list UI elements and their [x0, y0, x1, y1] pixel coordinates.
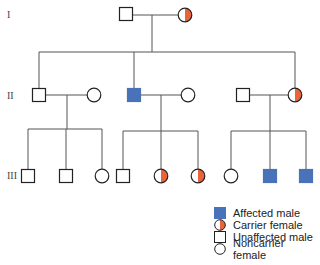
- female-carrier-symbol: [178, 8, 192, 22]
- male-affected-symbol: [300, 170, 313, 183]
- pedigree-lines: [28, 15, 306, 169]
- legend: Affected male Carrier female Unaffected …: [214, 207, 320, 255]
- male-affected-symbol: [264, 170, 277, 183]
- legend-item-carrier-female: Carrier female: [214, 219, 320, 231]
- affected-male-icon: [214, 207, 226, 219]
- female-noncarrier-symbol: [95, 169, 109, 183]
- generation-label-I: I: [7, 9, 10, 20]
- carrier-female-icon: [214, 219, 226, 231]
- male-unaffected-symbol: [120, 8, 133, 21]
- male-unaffected-symbol: [33, 89, 46, 102]
- female-carrier-symbol: [154, 169, 168, 183]
- male-unaffected-symbol: [117, 170, 130, 183]
- legend-item-affected-male: Affected male: [214, 207, 320, 219]
- generation-label-II: II: [7, 90, 14, 101]
- legend-item-noncarrier-female: Noncarrier female: [214, 243, 320, 255]
- noncarrier-female-icon: [214, 243, 226, 255]
- male-unaffected-symbol: [60, 170, 73, 183]
- female-noncarrier-symbol: [181, 88, 195, 102]
- legend-label: Carrier female: [233, 219, 303, 231]
- male-unaffected-symbol: [237, 89, 250, 102]
- legend-label: Affected male: [233, 207, 300, 219]
- unaffected-male-icon: [214, 231, 226, 243]
- female-noncarrier-symbol: [224, 169, 238, 183]
- female-carrier-symbol: [288, 88, 302, 102]
- female-noncarrier-symbol: [87, 88, 101, 102]
- legend-label: Noncarrier female: [233, 237, 320, 261]
- female-carrier-symbol: [191, 169, 205, 183]
- male-unaffected-symbol: [22, 170, 35, 183]
- male-affected-symbol: [128, 89, 141, 102]
- generation-label-III: III: [7, 170, 17, 181]
